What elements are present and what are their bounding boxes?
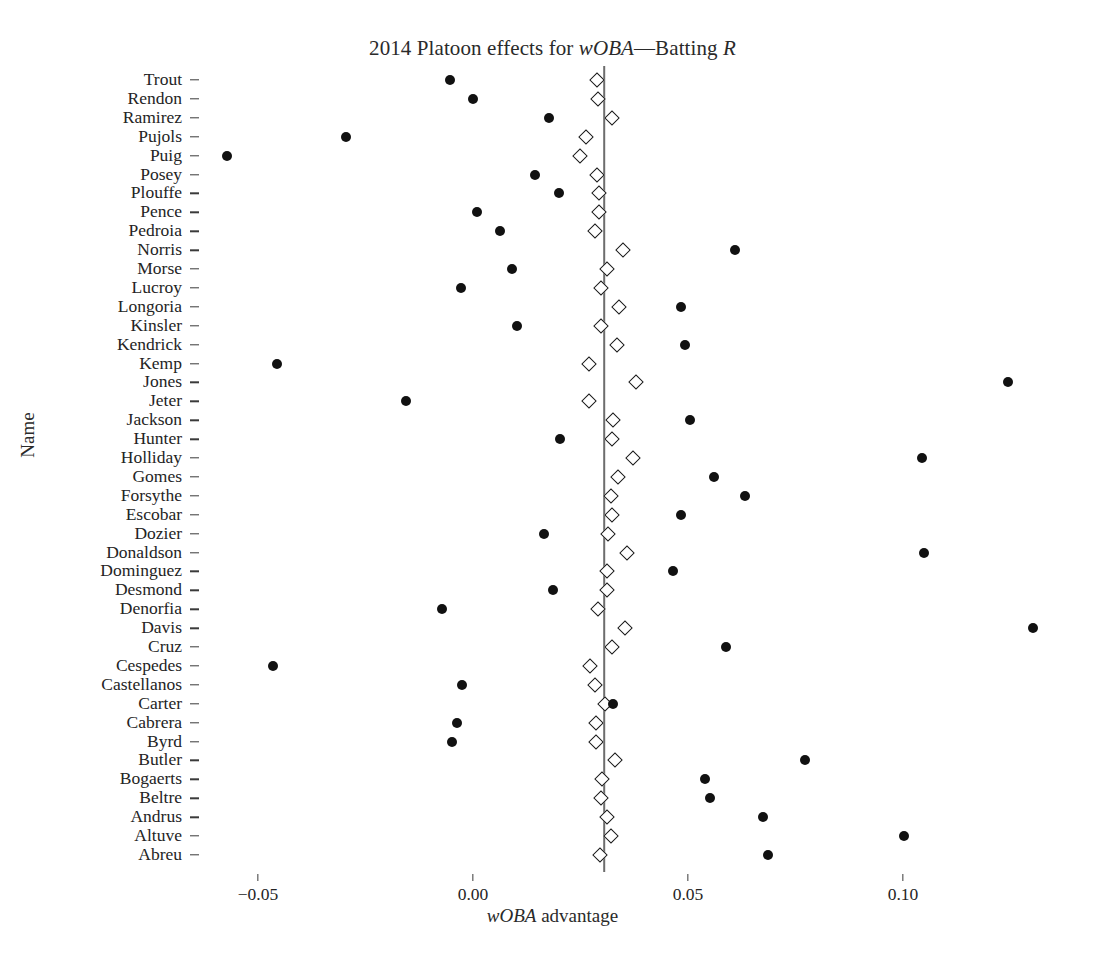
data-point-estimate <box>604 110 620 126</box>
y-axis-tick-label: Andrus <box>130 808 182 826</box>
y-axis-tick-mark <box>190 627 199 628</box>
data-point-observed <box>539 529 549 539</box>
y-axis-tick-label: Escobar <box>126 506 182 524</box>
y-axis-tick-mark <box>190 798 199 799</box>
data-point-estimate <box>615 242 631 258</box>
y-axis-tick-mark <box>190 816 199 817</box>
data-point-observed <box>272 359 282 369</box>
y-axis-tick-mark <box>190 646 199 647</box>
y-axis-tick-mark <box>190 344 199 345</box>
y-axis-tick-label: Kinsler <box>130 317 182 335</box>
data-point-estimate <box>588 715 604 731</box>
y-axis-tick-label: Jones <box>143 374 182 392</box>
y-axis-tick-mark <box>190 193 199 194</box>
data-point-estimate <box>587 677 603 693</box>
data-point-estimate <box>593 791 609 807</box>
y-axis-tick-label: Ramirez <box>123 109 182 127</box>
y-axis-tick-mark <box>190 438 199 439</box>
y-axis-tick-label: Longoria <box>118 298 182 316</box>
chart-title-italic-r: R <box>723 36 736 60</box>
data-point-observed <box>468 94 478 104</box>
y-axis-tick-label: Altuve <box>134 827 182 845</box>
y-axis-tick-label: Puig <box>150 147 182 165</box>
data-point-observed <box>919 548 929 558</box>
data-point-observed <box>668 566 678 576</box>
y-axis-tick-mark <box>190 854 199 855</box>
data-point-observed <box>608 699 618 709</box>
y-axis-tick-mark <box>190 835 199 836</box>
y-axis-tick-label: Davis <box>141 619 182 637</box>
y-axis-tick-mark <box>190 495 199 496</box>
y-axis-tick-mark <box>190 571 199 572</box>
data-point-observed <box>437 604 447 614</box>
data-point-observed <box>512 321 522 331</box>
chart-title-italic-woba: wOBA <box>579 36 634 60</box>
y-axis-tick-label: Morse <box>137 260 182 278</box>
data-point-observed <box>544 113 554 123</box>
data-point-observed <box>555 434 565 444</box>
data-point-estimate <box>582 658 598 674</box>
x-axis-label-rest: advantage <box>536 905 618 926</box>
x-axis-label: wOBA advantage <box>0 905 1105 927</box>
data-point-estimate <box>592 847 608 863</box>
data-point-estimate <box>581 356 597 372</box>
y-axis-tick-mark <box>190 98 199 99</box>
data-point-observed <box>730 245 740 255</box>
data-point-observed <box>341 132 351 142</box>
data-point-estimate <box>599 809 615 825</box>
data-point-estimate <box>588 734 604 750</box>
data-point-estimate <box>572 148 588 164</box>
y-axis-tick-label: Kendrick <box>117 336 182 354</box>
y-axis-tick-label: Hunter <box>133 430 182 448</box>
data-point-estimate <box>581 394 597 410</box>
y-axis-tick-mark <box>190 684 199 685</box>
y-axis-tick-mark <box>190 287 199 288</box>
data-point-estimate <box>611 299 627 315</box>
data-point-observed <box>472 207 482 217</box>
data-point-observed <box>758 812 768 822</box>
y-axis-tick-label: Byrd <box>147 733 182 751</box>
x-axis-tick-mark <box>472 874 473 881</box>
data-point-estimate <box>599 583 615 599</box>
data-point-observed <box>452 718 462 728</box>
x-axis-tick-mark <box>902 874 903 881</box>
y-axis-tick-mark <box>190 382 199 383</box>
data-point-observed <box>676 302 686 312</box>
y-axis-tick-label: Bogaerts <box>120 771 182 789</box>
y-axis-tick-label: Gomes <box>132 468 182 486</box>
data-point-observed <box>740 491 750 501</box>
data-point-observed <box>445 75 455 85</box>
data-point-observed <box>507 264 517 274</box>
data-point-observed <box>554 188 564 198</box>
data-point-estimate <box>609 337 625 353</box>
y-axis-tick-label: Beltre <box>139 790 182 808</box>
y-axis-tick-mark <box>190 457 199 458</box>
y-axis-tick-mark <box>190 363 199 364</box>
data-point-observed <box>899 831 909 841</box>
x-axis-tick-mark <box>257 874 258 881</box>
chart-title-pre: 2014 Platoon effects for <box>369 36 579 60</box>
data-point-estimate <box>605 412 621 428</box>
data-point-observed <box>1028 623 1038 633</box>
y-axis-tick-mark <box>190 590 199 591</box>
data-point-observed <box>457 680 467 690</box>
data-point-observed <box>685 415 695 425</box>
chart-title-mid: —Batting <box>634 36 723 60</box>
y-axis-tick-label: Pujols <box>138 128 182 146</box>
y-axis-tick-label: Posey <box>140 166 182 184</box>
y-axis-tick-label: Butler <box>138 752 182 770</box>
data-point-estimate <box>603 828 619 844</box>
y-axis-tick-label: Trout <box>144 71 182 89</box>
data-point-estimate <box>578 129 594 145</box>
y-axis-tick-mark <box>190 212 199 213</box>
x-axis-tick-label: 0.10 <box>888 884 919 905</box>
y-axis-tick-mark <box>190 552 199 553</box>
y-axis-tick-label: Rendon <box>128 90 182 108</box>
data-point-estimate <box>593 280 609 296</box>
y-axis-tick-mark <box>190 401 199 402</box>
y-axis-tick-mark <box>190 249 199 250</box>
y-axis-tick-label: Castellanos <box>101 676 182 694</box>
y-axis-tick-mark <box>190 741 199 742</box>
data-point-observed <box>709 472 719 482</box>
y-axis-tick-label: Denorfia <box>120 601 182 619</box>
